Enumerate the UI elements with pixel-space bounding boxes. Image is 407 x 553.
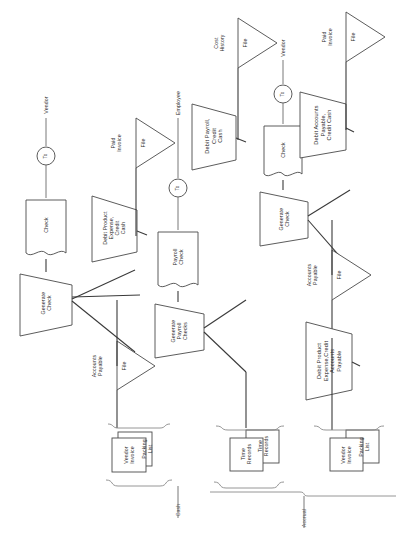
line-generate-check-to-paid-invoice (72, 270, 135, 299)
connector-to-1 (37, 147, 55, 165)
document-check-accrual (264, 126, 302, 176)
journal-entry-payroll (192, 104, 236, 170)
process-generate-check-accrual (260, 192, 308, 246)
line-generate-check-to-ap-file (72, 301, 135, 352)
connector-to-2 (169, 179, 187, 197)
file-paid-invoice-accrual (346, 12, 385, 62)
file-paid-invoice-cash (136, 118, 175, 168)
document-vendor-invoice-accrual (330, 438, 363, 471)
line-accrual-to-journal (308, 190, 350, 216)
brace-time-records (216, 426, 284, 430)
process-generate-check-cash (20, 274, 72, 336)
brace-cash-bottom (106, 480, 172, 486)
document-check-cash (26, 200, 66, 255)
flowchart-svg (0, 0, 407, 553)
brace-time-records-bottom (214, 482, 284, 488)
line-journal-connector-cash (137, 231, 147, 235)
flowchart-canvas: Vendor To Check Generate Check Debit Pro… (0, 0, 407, 553)
line-payroll-to-journal (204, 300, 246, 328)
line-accrual-journal-connector (346, 128, 354, 132)
file-accounts-payable-cash (117, 341, 155, 390)
connector-to-3 (274, 85, 292, 103)
document-vendor-invoice-cash (112, 438, 146, 472)
journal-entry-cash-disbursement (92, 196, 137, 262)
file-cost-history (238, 18, 277, 68)
line-accrual-accrued-connector (352, 362, 360, 366)
document-payroll-check (158, 232, 198, 287)
line-payroll-to-time-records (204, 332, 246, 372)
line-generate-check-to-journal (72, 295, 140, 297)
file-accounts-payable-accrual (332, 250, 371, 300)
process-generate-payroll-checks (155, 304, 204, 358)
journal-entry-accrual-accrued (306, 322, 352, 400)
journal-entry-accrual-disbursement (300, 92, 346, 158)
document-time-records-1 (230, 438, 263, 471)
brace-accrual-top (314, 426, 384, 430)
brace-accrual-span (210, 492, 396, 496)
